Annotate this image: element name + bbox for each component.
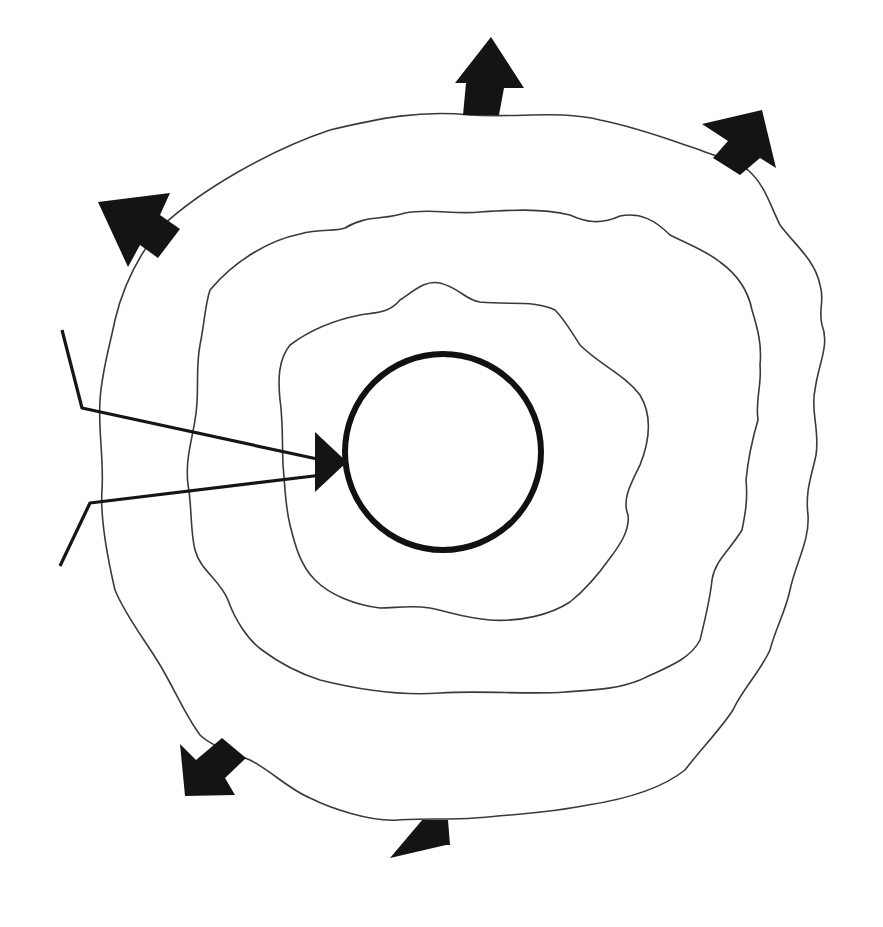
management-layers-diagram xyxy=(0,0,883,927)
arrow-down-icon xyxy=(390,819,450,858)
skills-ring-outline xyxy=(100,113,825,820)
evaluation-arrowhead-icon xyxy=(315,432,347,492)
processes-ring-outline xyxy=(187,210,760,694)
values-core-circle xyxy=(345,354,541,550)
arrow-up-right-icon xyxy=(702,110,776,175)
arrow-down-left-icon xyxy=(180,738,246,796)
arrow-up-left-icon xyxy=(98,193,180,267)
arrow-up-icon xyxy=(455,37,524,115)
